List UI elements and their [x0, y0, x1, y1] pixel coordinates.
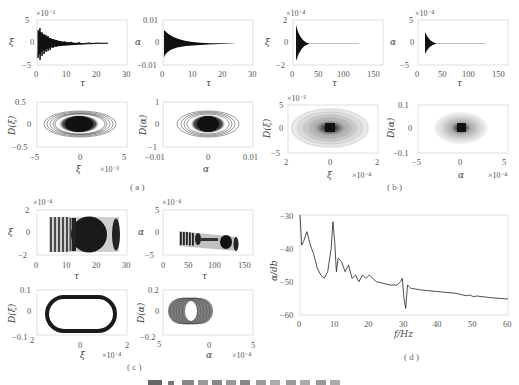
svg-text:ξ: ξ — [8, 227, 14, 237]
svg-text:0: 0 — [26, 227, 30, 237]
svg-text:2: 2 — [30, 335, 34, 345]
svg-text:×10⁻⁴: ×10⁻⁴ — [286, 9, 306, 18]
svg-text:10: 10 — [188, 69, 197, 79]
svg-text:−30: −30 — [280, 211, 293, 221]
svg-text:f/Hz: f/Hz — [393, 329, 413, 339]
svg-text:0: 0 — [206, 152, 210, 162]
figure-caption-truncated — [148, 380, 340, 385]
svg-text:−60: −60 — [280, 310, 293, 320]
svg-text:ξ: ξ — [76, 164, 82, 174]
svg-text:0: 0 — [30, 37, 34, 47]
svg-text:5: 5 — [155, 205, 159, 215]
svg-text:0: 0 — [78, 340, 82, 350]
svg-text:50: 50 — [184, 260, 193, 270]
svg-text:5: 5 — [409, 15, 413, 25]
svg-text:150: 150 — [492, 69, 505, 79]
svg-text:0: 0 — [160, 69, 164, 79]
svg-text:α: α — [390, 37, 396, 47]
svg-text:×10⁻⁴: ×10⁻⁴ — [162, 198, 182, 207]
chart-c-alpha-phase: 0.2 0 −0.2 5 0 5 α ×10⁻⁴ D(α) — [136, 285, 255, 360]
svg-text:0: 0 — [155, 37, 159, 47]
svg-text:5: 5 — [251, 340, 255, 350]
svg-text:D(ξ): D(ξ) — [7, 115, 17, 136]
svg-text:D(ξ): D(ξ) — [262, 118, 272, 139]
chart-b-xi-time: ×10⁻⁴ 2 0 −2 0 50 100 150 τ ξ — [265, 9, 383, 88]
chart-a-xi-time: ×10⁻³ 5 0 −5 0 10 20 30 τ ξ — [9, 9, 131, 88]
svg-text:5: 5 — [279, 100, 283, 110]
svg-text:α: α — [458, 170, 464, 180]
svg-text:×10⁻⁴: ×10⁻⁴ — [33, 198, 53, 207]
svg-text:0: 0 — [78, 152, 82, 162]
svg-text:0: 0 — [410, 37, 414, 47]
svg-text:40: 40 — [433, 319, 442, 329]
svg-text:0: 0 — [207, 340, 211, 350]
svg-text:150: 150 — [238, 260, 251, 270]
svg-text:×10⁻³: ×10⁻³ — [100, 165, 120, 174]
svg-text:0.01: 0.01 — [143, 15, 158, 25]
svg-text:0.2: 0.2 — [148, 285, 159, 295]
svg-text:τ: τ — [206, 78, 212, 88]
svg-text:−50: −50 — [280, 277, 293, 287]
svg-text:τ: τ — [332, 78, 338, 88]
svg-text:5: 5 — [157, 339, 161, 349]
svg-text:30: 30 — [122, 260, 131, 270]
svg-text:20: 20 — [92, 69, 101, 79]
svg-text:50: 50 — [468, 319, 477, 329]
svg-text:α: α — [135, 37, 141, 47]
svg-text:−5: −5 — [412, 157, 421, 167]
svg-text:2: 2 — [25, 205, 29, 215]
panel-label-a: ( a ) — [130, 182, 145, 192]
spectrum-line — [300, 215, 508, 308]
svg-text:0: 0 — [279, 123, 283, 133]
svg-text:100: 100 — [208, 260, 221, 270]
svg-text:D(α): D(α) — [138, 114, 148, 136]
chart-a-alpha-phase: 1 0 −1 −0.01 0 0.01 α D(α) — [138, 97, 258, 174]
chart-b-xi-phase: ×10⁻³ 5 0 −5 2 0 2 ξ ×10⁻⁴ D(ξ) — [262, 94, 379, 180]
svg-text:×10⁻⁴: ×10⁻⁴ — [232, 351, 252, 360]
svg-text:−1: −1 — [148, 142, 157, 152]
panel-label-c: ( c ) — [127, 362, 142, 372]
chart-a-xi-phase: 0.5 0 −0.5 −5 0 5 ξ ×10⁻³ D(ξ) — [7, 97, 127, 174]
svg-text:−5: −5 — [145, 250, 154, 260]
svg-text:×10⁻⁴: ×10⁻⁴ — [415, 9, 435, 18]
svg-text:D(α): D(α) — [136, 302, 146, 324]
svg-text:ξ: ξ — [9, 37, 15, 47]
svg-text:×10⁻³: ×10⁻³ — [287, 94, 307, 103]
svg-text:30: 30 — [248, 69, 257, 79]
svg-text:30: 30 — [122, 69, 131, 79]
svg-text:0: 0 — [27, 306, 31, 316]
svg-text:0: 0 — [297, 319, 301, 329]
svg-text:0: 0 — [155, 306, 159, 316]
svg-text:20: 20 — [364, 319, 373, 329]
svg-text:α: α — [138, 227, 144, 237]
svg-text:−5: −5 — [400, 60, 409, 70]
svg-text:−0.1: −0.1 — [393, 148, 408, 158]
svg-text:−0.1: −0.1 — [12, 332, 27, 342]
svg-text:D(α): D(α) — [386, 117, 396, 139]
svg-text:0: 0 — [415, 69, 419, 79]
chart-d-spectrum: −30 −40 −50 −60 0 10 20 30 40 50 60 f/Hz… — [269, 211, 512, 339]
svg-text:−5: −5 — [271, 148, 280, 158]
svg-text:−2: −2 — [276, 60, 285, 70]
svg-text:×10⁻⁴: ×10⁻⁴ — [488, 171, 508, 180]
svg-text:100: 100 — [462, 69, 475, 79]
svg-text:ξ: ξ — [80, 350, 86, 360]
svg-text:50: 50 — [438, 69, 447, 79]
svg-text:τ: τ — [74, 271, 80, 281]
svg-text:D(ξ): D(ξ) — [7, 303, 17, 324]
chart-b-alpha-phase: 0.1 0 −0.1 −5 0 5 α ×10⁻⁴ D(α) — [386, 100, 508, 180]
svg-text:5: 5 — [502, 157, 506, 167]
svg-text:−0.5: −0.5 — [12, 142, 27, 152]
svg-text:−5: −5 — [30, 152, 39, 162]
panel-label-b: ( b ) — [387, 182, 402, 192]
svg-text:ξ: ξ — [327, 170, 333, 180]
svg-text:0.01: 0.01 — [243, 152, 258, 162]
svg-text:−0.01: −0.01 — [145, 152, 165, 162]
svg-text:−5: −5 — [22, 60, 31, 70]
svg-text:α: α — [203, 164, 209, 174]
svg-text:×10⁻⁴: ×10⁻⁴ — [102, 351, 122, 360]
svg-text:−0.01: −0.01 — [137, 60, 157, 70]
svg-text:100: 100 — [337, 69, 350, 79]
svg-text:1: 1 — [155, 97, 159, 107]
svg-text:0.1: 0.1 — [20, 285, 31, 295]
